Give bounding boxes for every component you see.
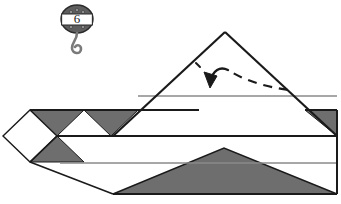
diagram-canvas: 6 bbox=[0, 0, 341, 204]
pulley-rivet-bottom-right bbox=[81, 25, 84, 28]
pulley-rivet-top-left bbox=[69, 10, 72, 13]
origami-diagram-svg: 6 bbox=[0, 0, 341, 204]
pulley-rivet-bottom-left bbox=[69, 25, 72, 28]
step-number-label: 6 bbox=[74, 11, 81, 26]
pulley-rivet-top-right bbox=[81, 10, 84, 13]
